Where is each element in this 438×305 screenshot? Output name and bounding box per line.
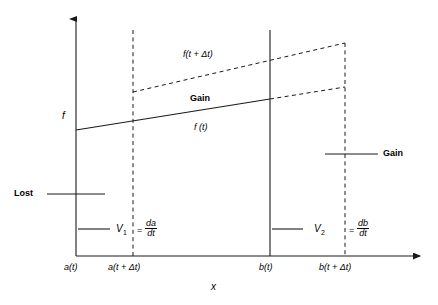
curve-label-f-t-dt: f(t + Δt) xyxy=(183,50,213,59)
diagram-canvas: f x a(t) a(t + Δt) b(t) b(t + Δt) f(t + … xyxy=(0,0,438,305)
velocity-v1-symbol: V xyxy=(116,224,123,234)
velocity-v2-equals: = xyxy=(349,226,354,235)
velocity-v1-denominator: dt xyxy=(145,229,157,238)
x-tick-label-a-t-dt: a(t + Δt) xyxy=(108,263,140,272)
x-tick-label-a-t: a(t) xyxy=(64,263,78,272)
diagram-vector-layer xyxy=(0,0,438,305)
annotation-gain-right: Gain xyxy=(383,149,403,158)
velocity-v2-symbol: V xyxy=(314,224,321,234)
curve-f-t-dt-dashed xyxy=(133,43,345,92)
annotation-gain-center: Gain xyxy=(190,94,210,103)
curve-f-t-dashed-extension xyxy=(270,87,345,99)
curve-label-f-t: f (t) xyxy=(194,123,208,132)
velocity-v2-subscript: 2 xyxy=(321,229,325,236)
velocity-v2-denominator: dt xyxy=(357,229,369,238)
velocity-v1-equals: = xyxy=(137,226,142,235)
x-tick-label-b-t: b(t) xyxy=(259,263,273,272)
annotation-lost-left: Lost xyxy=(14,189,33,198)
velocity-v1-fraction: da dt xyxy=(145,219,157,239)
velocity-v2-fraction: db dt xyxy=(357,219,369,239)
x-tick-label-b-t-dt: b(t + Δt) xyxy=(319,263,351,272)
curve-f-t-solid xyxy=(76,99,270,130)
y-axis-label: f xyxy=(62,111,65,121)
x-axis-label: x xyxy=(211,282,216,292)
velocity-v1-subscript: 1 xyxy=(123,229,127,236)
